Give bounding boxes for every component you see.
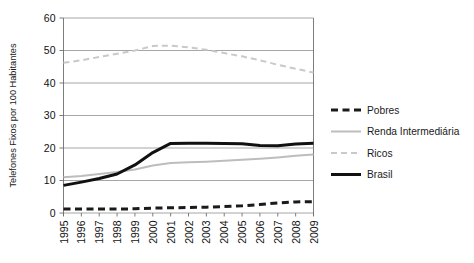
data-series-group [64,46,314,209]
y-tick-label-10: 10 [44,174,56,186]
y-axis-label-group: Telefones Fixos por 100 Habitantes [8,43,18,187]
y-tick-label-0: 0 [50,207,56,219]
legend-label-ricos: Ricos [367,148,392,159]
series-line-brasil [64,143,314,185]
x-tick-label-2009: 2009 [308,220,320,244]
x-tick-label-2003: 2003 [200,220,212,244]
x-tick-label-2002: 2002 [183,220,195,244]
x-tick-label-2007: 2007 [272,220,284,244]
y-axis-title: Telefones Fixos por 100 Habitantes [8,43,18,187]
x-tick-label-2005: 2005 [236,220,248,244]
x-tick-label-2000: 2000 [147,220,159,244]
series-line-renda-intermediria [64,155,314,178]
chart-figure: 0102030405060 19951996199719981999200020… [0,0,474,263]
y-tick-label-20: 20 [44,142,56,154]
x-tick-label-1999: 1999 [129,220,141,244]
legend-label-renda-intermediria: Renda Intermediária [367,126,460,137]
x-tick-label-1997: 1997 [93,220,105,244]
legend-label-brasil: Brasil [367,169,392,180]
y-tick-label-60: 60 [44,12,56,24]
series-line-pobres [64,202,314,209]
y-tick-label-30: 30 [44,109,56,121]
y-tick-label-50: 50 [44,44,56,56]
x-tick-label-1998: 1998 [111,220,123,244]
x-tick-labels-group: 1995199619971998199920002001200220032004… [58,220,320,244]
y-tick-label-40: 40 [44,77,56,89]
x-tick-label-1996: 1996 [75,220,87,244]
x-tick-label-1995: 1995 [58,220,70,244]
chart-legend: PobresRenda IntermediáriaRicosBrasil [331,105,460,181]
gridlines-group [64,18,314,213]
line-chart-svg: 0102030405060 19951996199719981999200020… [0,0,474,263]
x-tick-label-2006: 2006 [254,220,266,244]
legend-label-pobres: Pobres [367,105,399,116]
x-tick-label-2004: 2004 [218,220,230,244]
x-tick-label-2008: 2008 [290,220,302,244]
y-tick-labels-group: 0102030405060 [44,12,56,219]
x-tick-label-2001: 2001 [165,220,177,244]
series-line-ricos [64,46,314,73]
